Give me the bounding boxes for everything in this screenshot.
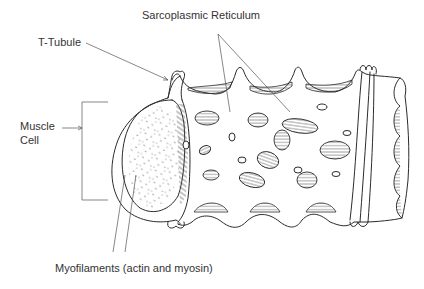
sarcoplasmic-reticulum-label: Sarcoplasmic Reticulum bbox=[142, 9, 260, 22]
sr-top-hatch bbox=[188, 80, 352, 94]
t-tubule-label: T-Tubule bbox=[38, 36, 81, 49]
myofilament-leader-2 bbox=[125, 175, 136, 252]
myofilament-leader-1 bbox=[113, 175, 125, 252]
muscle-cell-bracket bbox=[82, 102, 108, 200]
muscle-cell-diagram: T-Tubule Sarcoplasmic Reticulum Muscle C… bbox=[0, 0, 424, 289]
myofilaments-label: Myofilaments (actin and myosin) bbox=[55, 262, 213, 275]
sr-bottom-hatch bbox=[194, 203, 336, 212]
sr-blobs bbox=[183, 104, 351, 190]
cell-label: Cell bbox=[20, 134, 39, 147]
muscle-label: Muscle bbox=[20, 120, 55, 133]
t-tubule-leader bbox=[86, 43, 168, 80]
sr-leader-1 bbox=[218, 34, 230, 112]
sr-leader-2 bbox=[218, 34, 290, 112]
